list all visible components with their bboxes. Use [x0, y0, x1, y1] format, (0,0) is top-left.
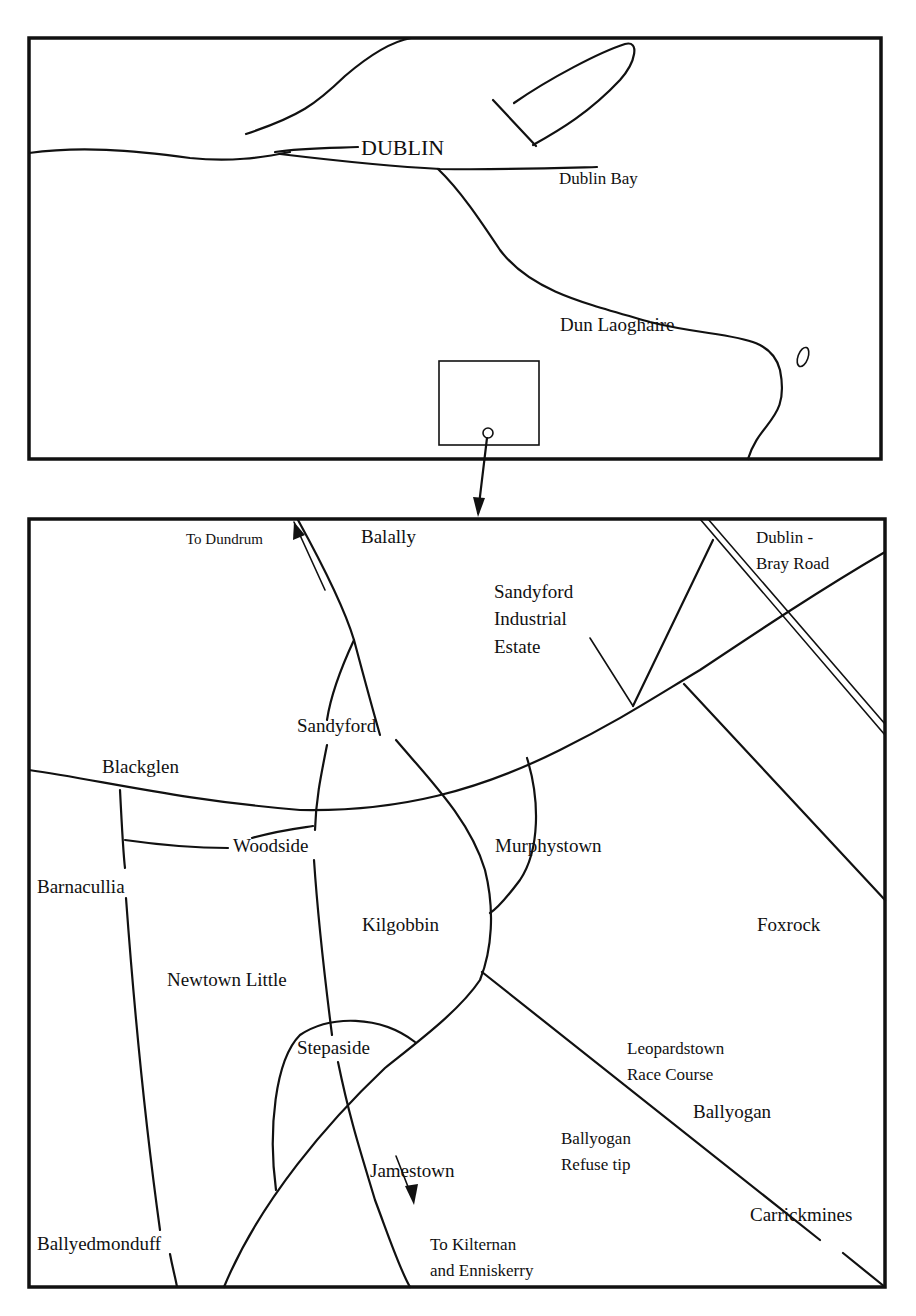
site-marker-icon — [483, 428, 493, 438]
label-leopardstown-1: Leopardstown — [627, 1039, 724, 1059]
label-ballyogan-tip-2: Refuse tip — [561, 1155, 630, 1175]
kilternan-arrow-icon — [405, 1184, 418, 1205]
label-sie-2: Industrial — [494, 608, 567, 631]
label-dun-laoghaire: Dun Laoghaire — [560, 314, 674, 337]
foxrock-road — [684, 684, 885, 900]
label-sandyford: Sandyford — [297, 715, 376, 738]
woodside-road-west — [125, 840, 228, 848]
stepaside-north-road — [314, 860, 332, 1035]
peninsula-crossline — [493, 100, 536, 146]
label-barnacullia: Barnacullia — [37, 876, 125, 899]
label-foxrock: Foxrock — [757, 914, 820, 937]
barnacullia-road-south — [126, 898, 160, 1230]
label-dublin-bray-1: Dublin - — [756, 528, 813, 548]
label-sie-1: Sandyford — [494, 581, 573, 604]
label-ballyogan: Ballyogan — [693, 1101, 771, 1124]
industrial-estate-road — [633, 540, 713, 706]
north-coast — [246, 38, 411, 134]
label-to-kilternan-1: To Kilternan — [430, 1235, 516, 1255]
howth-peninsula — [514, 44, 634, 145]
islet — [795, 346, 811, 368]
label-stepaside: Stepaside — [297, 1037, 370, 1060]
label-blackglen: Blackglen — [102, 756, 179, 779]
label-woodside: Woodside — [233, 835, 309, 858]
industrial-estate-pointer — [590, 638, 633, 706]
sandyford-woodside-road — [315, 745, 327, 830]
label-newtown-little: Newtown Little — [167, 969, 287, 992]
sandyford-west-branch — [327, 640, 354, 720]
kilgobbin-road — [224, 740, 491, 1287]
label-jamestown: Jamestown — [370, 1160, 454, 1183]
liffey-river-west — [29, 149, 290, 159]
map-drawing — [0, 0, 916, 1316]
carrickmines-road-end — [843, 1253, 885, 1287]
overview-frame — [29, 38, 881, 459]
label-balally: Balally — [361, 526, 416, 549]
label-leopardstown-2: Race Course — [627, 1065, 713, 1085]
label-to-kilternan-2: and Enniskerry — [430, 1261, 533, 1281]
label-dublin-bay: Dublin Bay — [559, 169, 638, 189]
label-dublin: DUBLIN — [361, 135, 444, 161]
study-area-box — [439, 361, 539, 445]
liffey-river-upper — [275, 147, 358, 152]
label-kilgobbin: Kilgobbin — [362, 914, 439, 937]
label-ballyedmonduff: Ballyedmonduff — [37, 1233, 161, 1256]
barnacullia-road-north — [120, 790, 125, 868]
label-ballyogan-tip-1: Ballyogan — [561, 1129, 631, 1149]
dublin-bray-road-a — [700, 519, 885, 735]
label-murphystown: Murphystown — [495, 835, 602, 858]
dundrum-road — [298, 520, 380, 735]
arrow-head-icon — [473, 497, 485, 517]
dublin-bray-road-b — [708, 519, 885, 724]
label-dublin-bray-2: Bray Road — [756, 554, 829, 574]
label-sie-3: Estate — [494, 636, 540, 659]
detail-frame — [29, 519, 885, 1287]
label-to-dundrum: To Dundrum — [186, 530, 263, 548]
label-carrickmines: Carrickmines — [750, 1204, 852, 1227]
ballyedmonduff-road-end — [170, 1254, 177, 1287]
